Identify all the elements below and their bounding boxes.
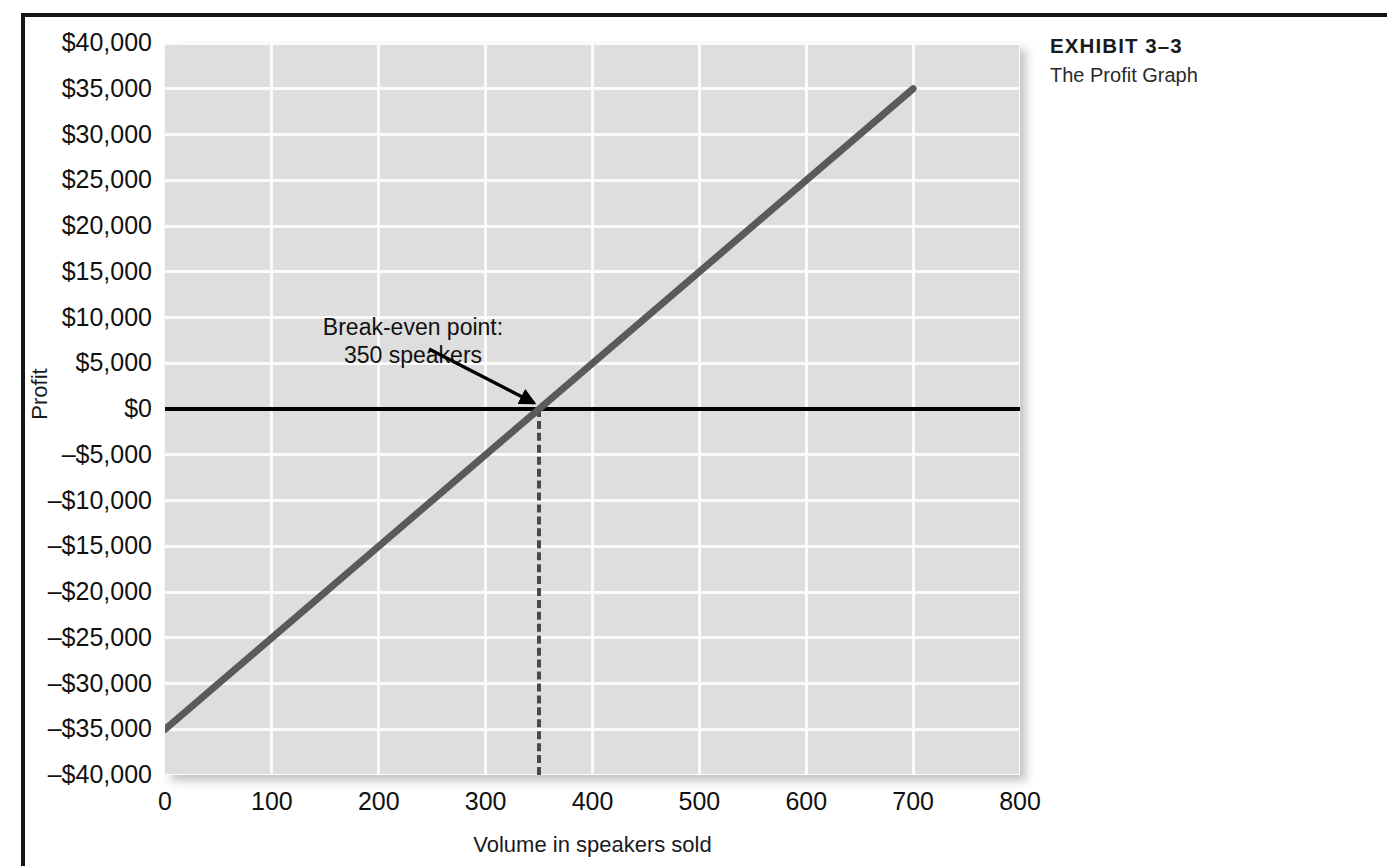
profit-graph-chart: $40,000$35,000$30,000$25,000$20,000$15,0… (0, 0, 1387, 866)
x-axis-tick-label: 300 (426, 789, 546, 814)
y-axis-tick-label: $25,000 (0, 167, 152, 192)
x-axis-tick-label: 400 (533, 789, 653, 814)
y-axis-tick-labels: $40,000$35,000$30,000$25,000$20,000$15,0… (0, 43, 152, 775)
x-axis-tick-label: 200 (319, 789, 439, 814)
y-axis-tick-label: –$30,000 (0, 671, 152, 696)
x-axis-tick-label: 700 (853, 789, 973, 814)
x-axis-tick-label: 600 (746, 789, 866, 814)
break-even-annotation-line1: Break-even point: (283, 313, 543, 341)
y-axis-tick-label: $35,000 (0, 76, 152, 101)
y-axis-tick-label: –$20,000 (0, 579, 152, 604)
x-axis-tick-label: 0 (105, 789, 225, 814)
y-axis-tick-label: –$40,000 (0, 762, 152, 787)
y-axis-tick-label: $40,000 (0, 30, 152, 55)
profit-line (165, 43, 1020, 775)
y-axis-tick-label: $5,000 (0, 350, 152, 375)
x-axis-tick-label: 800 (960, 789, 1080, 814)
break-even-arrow-icon (424, 345, 554, 415)
y-axis-title: Profit (27, 334, 53, 454)
y-axis-tick-label: $15,000 (0, 259, 152, 284)
x-axis-tick-label: 100 (212, 789, 332, 814)
y-axis-tick-label: –$35,000 (0, 716, 152, 741)
y-axis-tick-label: –$5,000 (0, 442, 152, 467)
y-axis-tick-label: $10,000 (0, 305, 152, 330)
y-axis-tick-label: $30,000 (0, 122, 152, 147)
y-axis-tick-label: $20,000 (0, 213, 152, 238)
y-axis-tick-label: –$25,000 (0, 625, 152, 650)
x-axis-tick-labels: 0100200300400500600700800 (165, 789, 1020, 823)
y-axis-tick-label: $0 (0, 396, 152, 421)
y-axis-tick-label: –$10,000 (0, 488, 152, 513)
plot-area (165, 43, 1020, 775)
x-axis-tick-label: 500 (639, 789, 759, 814)
y-axis-tick-label: –$15,000 (0, 533, 152, 558)
x-axis-title: Volume in speakers sold (165, 832, 1020, 858)
